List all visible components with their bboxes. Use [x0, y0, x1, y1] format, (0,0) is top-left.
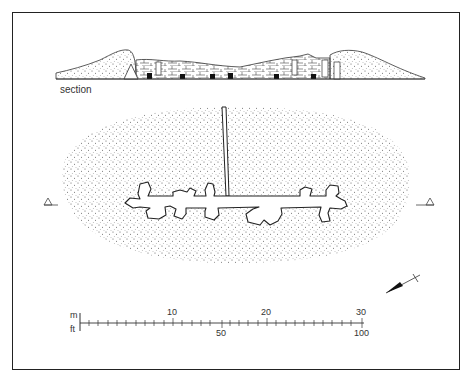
scale-tick-10m: 10	[167, 307, 177, 317]
scale-feet-label: ft	[70, 324, 75, 334]
scale-metres-label: m	[70, 310, 78, 320]
scale-tick-50ft: 50	[216, 328, 226, 338]
section-marker-left	[44, 198, 58, 205]
plan-view	[62, 107, 410, 263]
north-arrow-icon	[386, 274, 420, 293]
scale-tick-100ft: 100	[354, 328, 369, 338]
scale-tick-20m: 20	[261, 307, 271, 317]
section-marker-right	[416, 198, 434, 205]
scale-tick-30m: 30	[356, 307, 366, 317]
section-elevation	[56, 50, 425, 79]
section-label: section	[60, 84, 92, 95]
